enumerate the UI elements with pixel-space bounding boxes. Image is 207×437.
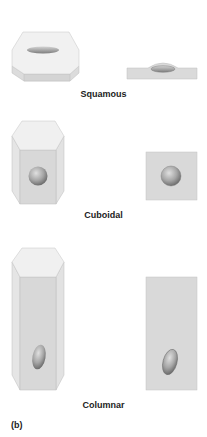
- columnar-side-cell: [146, 277, 197, 390]
- cuboidal-3d-cell: [12, 121, 64, 204]
- cuboidal-side-cell: [146, 152, 197, 200]
- label-squamous: Squamous: [0, 89, 207, 99]
- columnar-3d-cell: [12, 248, 64, 390]
- cuboidal-nucleus: [29, 167, 48, 186]
- squamous-side-cell: [127, 63, 197, 79]
- label-cuboidal: Cuboidal: [0, 210, 207, 220]
- squamous-3d-cell: [12, 32, 79, 81]
- label-columnar: Columnar: [0, 400, 207, 410]
- panel-label: (b): [11, 420, 23, 430]
- cuboidal-side-nucleus: [161, 166, 181, 186]
- squamous-nucleus: [27, 47, 59, 54]
- squamous-side-nucleus: [151, 66, 175, 73]
